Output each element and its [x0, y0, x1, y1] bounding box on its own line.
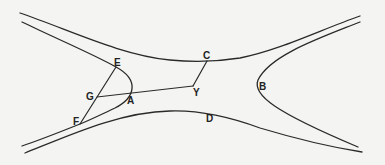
segment-Y-C	[193, 61, 207, 86]
label-B: B	[259, 81, 266, 92]
label-A: A	[127, 95, 134, 106]
label-F: F	[73, 116, 79, 127]
label-D: D	[206, 113, 213, 124]
upper-outer-curve	[20, 13, 360, 61]
hyperbola-diagram: A B C D E F G Y	[0, 0, 385, 165]
label-Y: Y	[193, 87, 200, 98]
right-hyperbola-branch	[257, 22, 360, 147]
label-E: E	[114, 57, 121, 68]
label-G: G	[86, 91, 94, 102]
segment-G-Y	[97, 86, 193, 97]
left-hyperbola-branch	[22, 22, 132, 146]
label-C: C	[203, 50, 210, 61]
